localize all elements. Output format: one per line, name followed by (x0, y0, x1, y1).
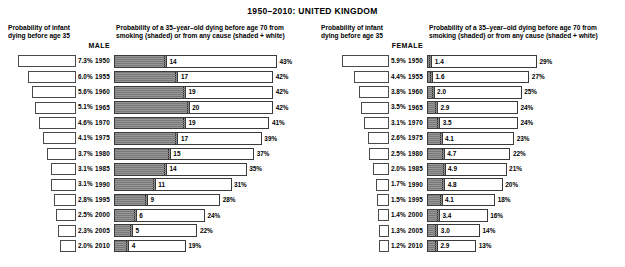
mortality-bar-zone: 624% (114, 208, 310, 223)
smoking-mortality-bar (427, 240, 438, 253)
chart-row: 1.5%19954.118% (313, 193, 625, 208)
infant-bar (379, 240, 389, 252)
mortality-bar-zone: 2.913% (427, 239, 623, 254)
smoking-boundary-marker (187, 102, 188, 113)
mortality-bar-zone: 1742% (114, 69, 310, 84)
smoking-value-label: 15 (173, 150, 180, 157)
infant-bar (369, 148, 389, 160)
smoking-mortality-bar (427, 101, 438, 114)
smoking-mortality-bar (114, 86, 186, 99)
infant-bar (39, 117, 76, 129)
smoking-boundary-marker (429, 56, 430, 67)
year-label: 1950 (389, 57, 423, 64)
sex-label-female: FEMALE (373, 42, 423, 49)
infant-bar-zone: 3.1% (4, 177, 76, 192)
chart-row: 3.5%19652.924% (313, 100, 625, 115)
infant-bar (376, 179, 390, 191)
smoking-boundary-marker (153, 179, 154, 190)
infant-bar (47, 148, 76, 160)
smoking-mortality-bar (114, 101, 190, 114)
smoking-value-label: 11 (158, 181, 165, 188)
smoking-value-label: 6 (139, 212, 143, 219)
panel-male: Probability of infant dying before age 3… (0, 24, 312, 267)
infant-header-line2: dying before age 35 (8, 32, 70, 39)
year-label: 1955 (389, 73, 423, 80)
infant-bar-zone: 5.6% (4, 85, 76, 100)
smoking-boundary-marker (145, 195, 146, 206)
chart-row: 1.7%19904.820% (313, 177, 625, 192)
smoking-boundary-marker (440, 133, 441, 144)
total-value-label: 16% (490, 212, 503, 219)
chart-row: 1.4%20003.416% (313, 208, 625, 223)
mortality-bar-zone: 522% (114, 223, 310, 238)
smoking-mortality-bar (114, 194, 148, 207)
smoking-boundary-marker (175, 133, 176, 144)
bars-header-line1: Probability of a 35–year–old dying befor… (116, 24, 284, 31)
smoking-mortality-bar (114, 55, 167, 68)
year-label: 1970 (76, 119, 110, 126)
smoking-value-label: 2.9 (440, 242, 449, 249)
smoking-boundary-marker (440, 195, 441, 206)
infant-bar-zone: 2.0% (317, 162, 389, 177)
smoking-value-label: 3.4 (442, 212, 451, 219)
smoking-boundary-marker (130, 225, 131, 236)
smoking-value-label: 4.1 (445, 135, 454, 142)
infant-bar-zone: 6.0% (4, 69, 76, 84)
total-value-label: 19% (189, 242, 202, 249)
smoking-value-label: 4.7 (447, 150, 456, 157)
mortality-bar-zone: 1443% (114, 54, 310, 69)
year-label: 1965 (76, 104, 110, 111)
smoking-mortality-bar (114, 178, 156, 191)
infant-bar (377, 194, 389, 206)
smoking-mortality-bar (114, 148, 171, 161)
smoking-value-label: 14 (170, 165, 177, 172)
mortality-bar-zone: 1739% (114, 131, 310, 146)
chart-row: 3.1%19703.524% (313, 116, 625, 131)
infant-bar-zone: 2.8% (4, 193, 76, 208)
infant-bar-zone: 5.1% (4, 100, 76, 115)
infant-bar-zone: 3.8% (317, 85, 389, 100)
mortality-bar-zone: 4.123% (427, 131, 623, 146)
total-value-label: 31% (234, 181, 247, 188)
chart-row: 5.1%19652042% (0, 100, 312, 115)
infant-bar-zone: 1.5% (317, 193, 389, 208)
chart-row: 1.2%20102.913% (313, 239, 625, 254)
smoking-boundary-marker (430, 72, 431, 83)
smoking-mortality-bar (114, 132, 178, 145)
smoking-mortality-bar (114, 71, 178, 84)
infant-bar-zone: 2.0% (4, 239, 76, 254)
infant-bar (359, 86, 389, 98)
smoking-boundary-marker (175, 72, 176, 83)
infant-bar (379, 225, 389, 237)
smoking-boundary-marker (442, 179, 443, 190)
infant-bar (378, 209, 389, 221)
smoking-mortality-bar (427, 209, 440, 222)
year-label: 1975 (389, 134, 423, 141)
year-label: 2000 (389, 211, 423, 218)
mortality-bar-zone: 1942% (114, 85, 310, 100)
infant-bar (368, 132, 389, 144)
smoking-boundary-marker (183, 87, 184, 98)
bars-header-line2: smoking (shaded) or from any cause (shad… (116, 32, 285, 39)
total-value-label: 21% (509, 165, 522, 172)
infant-header-line1: Probability of infant (321, 24, 383, 31)
smoking-value-label: 2.9 (440, 104, 449, 111)
total-value-label: 42% (276, 73, 289, 80)
smoking-value-label: 19 (189, 119, 196, 126)
mortality-bar-zone: 4.722% (427, 146, 623, 161)
chart-row: 4.1%19751739% (0, 131, 312, 146)
mortality-bar-zone: 928% (114, 193, 310, 208)
year-label: 2005 (389, 227, 423, 234)
infant-bar (18, 55, 76, 67)
total-value-label: 35% (249, 165, 262, 172)
total-value-label: 42% (276, 88, 289, 95)
mortality-bar-zone: 2.924% (427, 100, 623, 115)
total-value-label: 18% (498, 196, 511, 203)
infant-bar (32, 86, 76, 98)
chart-row: 5.6%19601942% (0, 85, 312, 100)
infant-bar (364, 117, 389, 129)
chart-row: 2.0%19854.921% (313, 162, 625, 177)
infant-bar-zone: 2.6% (317, 131, 389, 146)
year-label: 1975 (76, 134, 110, 141)
infant-bar-zone: 4.1% (4, 131, 76, 146)
